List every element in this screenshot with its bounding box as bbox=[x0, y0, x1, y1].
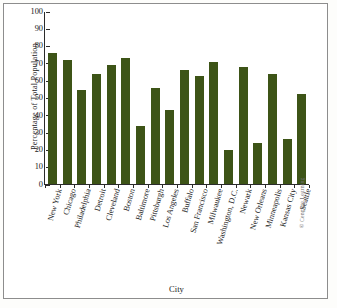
x-axis-category-label: New York bbox=[46, 188, 63, 222]
y-axis-tick-label: 20 bbox=[35, 146, 43, 154]
x-axis-tick-mark bbox=[309, 185, 310, 188]
bar bbox=[165, 110, 174, 184]
bar-series bbox=[45, 12, 309, 184]
bar bbox=[121, 58, 130, 184]
y-axis-tick-label: 60 bbox=[35, 77, 43, 85]
plot-area: 0102030405060708090100 bbox=[44, 12, 309, 185]
bar bbox=[63, 60, 72, 184]
y-axis-tick-label: 100 bbox=[30, 8, 43, 16]
copyright-credit: © Cengage Learning bbox=[299, 152, 305, 228]
x-axis-category-labels: New YorkChicagoPhiladelphiaDetroitClevel… bbox=[45, 188, 309, 274]
y-axis-tick-label: 0 bbox=[39, 181, 43, 189]
bar bbox=[180, 70, 189, 184]
bar bbox=[195, 76, 204, 184]
y-axis-tick-label: 30 bbox=[35, 129, 43, 137]
bar bbox=[253, 143, 262, 184]
y-axis-tick-label: 70 bbox=[35, 59, 43, 67]
x-axis-category-label: Buffalo bbox=[181, 188, 196, 214]
bar bbox=[92, 74, 101, 184]
y-axis-tick-label: 40 bbox=[35, 111, 43, 119]
bar bbox=[224, 150, 233, 184]
y-axis-tick-label: 10 bbox=[35, 163, 43, 171]
bar bbox=[48, 53, 57, 184]
x-axis-category-label: Boston bbox=[123, 188, 137, 212]
bar bbox=[209, 62, 218, 184]
bar bbox=[77, 90, 86, 184]
bar bbox=[136, 126, 145, 184]
x-axis-title: City bbox=[44, 284, 309, 294]
x-axis-category-label: Newark bbox=[239, 188, 254, 215]
bar bbox=[268, 74, 277, 184]
bar-chart-figure: Percentage of Total Population 010203040… bbox=[0, 0, 337, 308]
x-axis-category-label: Chicago bbox=[63, 188, 78, 216]
y-axis-tick-label: 50 bbox=[35, 94, 43, 102]
bar bbox=[107, 65, 116, 184]
bar bbox=[151, 88, 160, 184]
bar bbox=[283, 139, 292, 184]
y-axis-tick-label: 80 bbox=[35, 42, 43, 50]
bar bbox=[239, 67, 248, 184]
x-axis-category-label: Cleveland bbox=[105, 188, 122, 222]
y-axis-tick-label: 90 bbox=[35, 25, 43, 33]
x-axis-category-label: Detroit bbox=[93, 188, 107, 212]
